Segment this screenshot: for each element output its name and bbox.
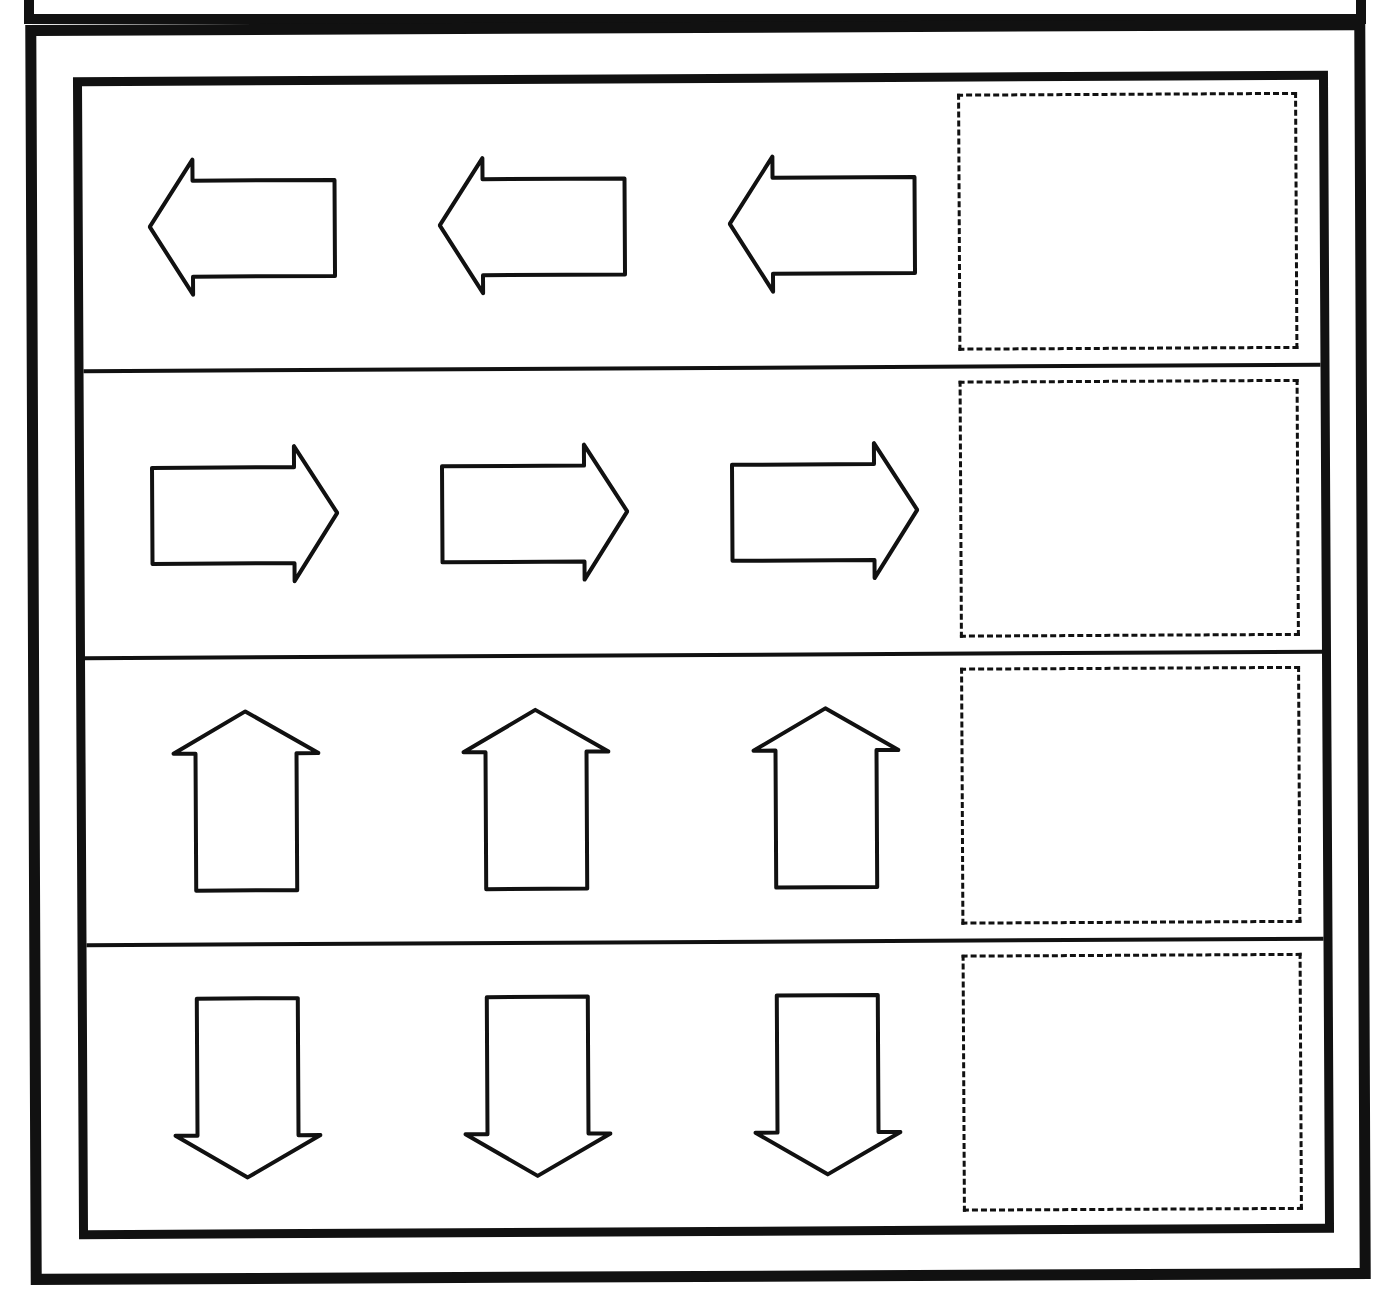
arrow-down-icon — [172, 995, 323, 1181]
row-left-arrows — [82, 80, 1320, 373]
arrow-cell — [389, 370, 680, 655]
arrow-down-icon — [752, 992, 903, 1178]
arrow-cell — [680, 656, 971, 941]
arrow-cell — [102, 946, 393, 1231]
arrow-up-icon — [460, 706, 611, 892]
arrow-cell — [387, 83, 678, 368]
worksheet-grid — [73, 71, 1334, 1240]
answer-box[interactable] — [960, 666, 1301, 925]
arrow-up-icon — [750, 705, 901, 891]
arrow-right-icon — [149, 441, 340, 587]
arrow-cell — [679, 369, 970, 654]
arrow-down-icon — [462, 993, 613, 1179]
arrow-right-icon — [439, 439, 630, 585]
arrow-cell — [100, 659, 391, 944]
arrow-right-icon — [729, 438, 920, 584]
arrow-cell — [99, 372, 390, 657]
row-down-arrows — [87, 941, 1325, 1230]
answer-box[interactable] — [959, 379, 1300, 638]
answer-box[interactable] — [962, 953, 1303, 1212]
arrow-cell — [392, 944, 683, 1229]
arrow-left-icon — [727, 151, 918, 297]
answer-box[interactable] — [957, 92, 1298, 351]
row-right-arrows — [84, 367, 1322, 660]
arrow-cell — [390, 657, 681, 942]
arrow-left-icon — [147, 154, 338, 300]
arrow-cell — [97, 85, 388, 370]
arrow-up-icon — [170, 708, 321, 894]
row-up-arrows — [85, 654, 1323, 947]
arrow-cell — [682, 943, 973, 1228]
arrow-left-icon — [437, 152, 628, 298]
arrow-cell — [677, 82, 968, 367]
